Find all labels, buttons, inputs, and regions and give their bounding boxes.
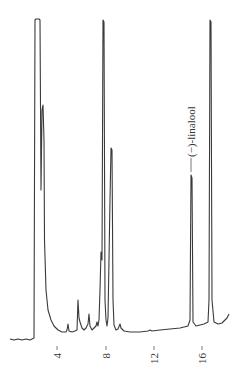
- x-axis: 4 8 12 16: [51, 346, 208, 364]
- chromatogram-chart: 4 8 12 16 (−)-linalool: [0, 0, 243, 374]
- x-tick-label-16: 16: [196, 353, 208, 365]
- x-tick-label-8: 8: [100, 353, 112, 359]
- x-tick-label-12: 12: [148, 353, 160, 364]
- x-tick-label-4: 4: [51, 353, 63, 359]
- chromatogram-trace: [10, 19, 229, 340]
- linalool-peak-label: (−)-linalool: [185, 106, 198, 157]
